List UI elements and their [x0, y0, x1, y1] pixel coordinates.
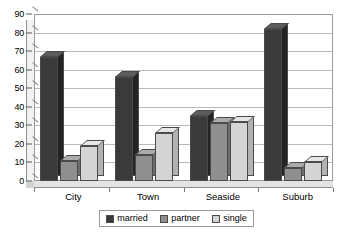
bar-front-face	[304, 162, 322, 181]
bar-chart: 0102030405060708090 CityTownSeasideSubur…	[0, 0, 352, 243]
legend-item-partner[interactable]: partner	[160, 214, 200, 223]
x-axis: CityTownSeasideSuburb	[0, 188, 352, 206]
x-axis-tick-label-city: City	[65, 191, 81, 202]
bar-series-container	[0, 0, 352, 195]
bar-single-city[interactable]	[80, 146, 98, 181]
bar-side-face	[248, 117, 254, 176]
bar-front-face	[40, 57, 58, 181]
bar-partner-city[interactable]	[60, 161, 78, 181]
bar-front-face	[230, 122, 248, 181]
single-swatch-icon	[212, 215, 220, 223]
bar-front-face	[264, 29, 282, 181]
bar-single-town[interactable]	[155, 133, 173, 181]
bar-side-face	[98, 141, 104, 176]
x-axis-separator	[333, 188, 334, 192]
bar-partner-seaside[interactable]	[210, 123, 228, 181]
bar-front-face	[190, 116, 208, 181]
bar-partner-suburb[interactable]	[284, 168, 302, 181]
legend-label-married: married	[117, 214, 148, 223]
bar-side-face	[282, 24, 288, 176]
bar-married-town[interactable]	[115, 77, 133, 181]
legend-label-single: single	[223, 214, 247, 223]
bar-single-suburb[interactable]	[304, 162, 322, 181]
x-axis-separator	[258, 188, 259, 192]
legend-item-single[interactable]: single	[212, 214, 247, 223]
bar-married-seaside[interactable]	[190, 116, 208, 181]
bar-partner-town[interactable]	[135, 155, 153, 181]
bar-front-face	[80, 146, 98, 181]
legend-item-married[interactable]: married	[106, 214, 148, 223]
x-axis-separator	[34, 188, 35, 192]
legend-label-partner: partner	[171, 214, 200, 223]
x-axis-tick-label-suburb: Suburb	[282, 191, 313, 202]
partner-swatch-icon	[160, 215, 168, 223]
bar-group	[40, 14, 115, 181]
x-axis-separator	[184, 188, 185, 192]
bar-group	[264, 14, 339, 181]
bar-married-city[interactable]	[40, 57, 58, 181]
x-axis-tick-label-town: Town	[137, 191, 159, 202]
bar-front-face	[210, 123, 228, 181]
bar-front-face	[155, 133, 173, 181]
bar-single-seaside[interactable]	[230, 122, 248, 181]
x-axis-tick-label-seaside: Seaside	[206, 191, 240, 202]
married-swatch-icon	[106, 215, 114, 223]
bar-front-face	[284, 168, 302, 181]
bar-group	[115, 14, 190, 181]
bar-front-face	[135, 155, 153, 181]
bar-married-suburb[interactable]	[264, 29, 282, 181]
bar-side-face	[173, 128, 179, 176]
bar-front-face	[115, 77, 133, 181]
chart-legend: married partner single	[99, 210, 254, 227]
bar-group	[190, 14, 265, 181]
x-axis-separator	[109, 188, 110, 192]
bar-front-face	[60, 161, 78, 181]
